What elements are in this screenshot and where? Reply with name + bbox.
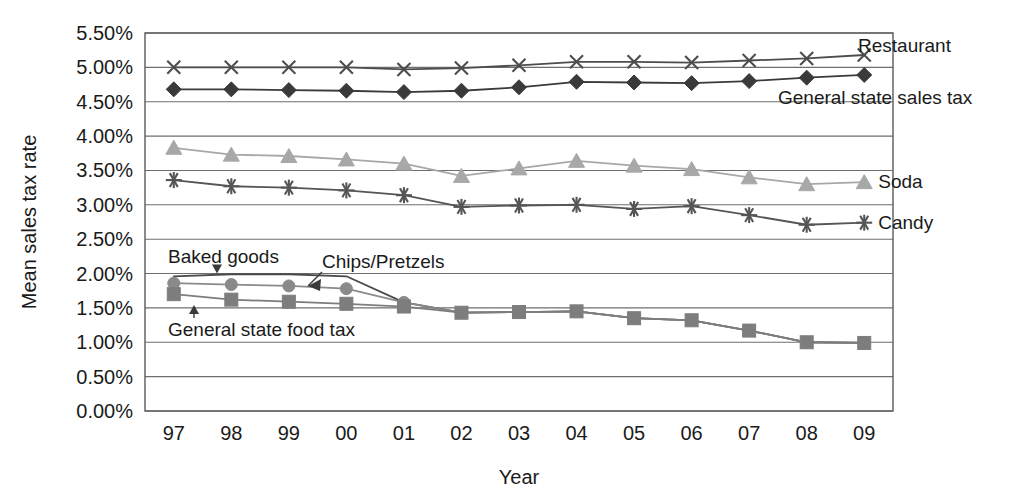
y-axis-tick-label: 0.00% [76,400,133,422]
x-axis-tick-label: 01 [393,422,415,444]
data-point-marker [454,83,469,98]
data-point-marker [684,76,699,91]
x-axis-tick-label: 07 [738,422,760,444]
x-axis-tick-label: 06 [680,422,702,444]
annotation-general-state-food-tax: General state food tax [168,319,355,340]
y-axis-tick-label: 1.00% [76,331,133,353]
y-axis-tick-label: 1.50% [76,297,133,319]
data-point-marker [224,82,239,97]
data-point-marker [511,198,527,214]
data-point-marker [338,182,354,198]
data-point-marker [857,67,872,82]
y-axis-tick-label: 2.00% [76,263,133,285]
data-point-marker [569,197,585,213]
y-axis-tick-label: 4.50% [76,91,133,113]
data-point-marker [628,312,641,325]
x-axis-tick-label: 98 [220,422,242,444]
data-point-marker [741,207,757,223]
x-axis-tick-label: 05 [623,422,645,444]
data-point-marker [858,336,871,349]
data-point-marker [743,324,756,337]
x-axis-tick-label: 00 [335,422,357,444]
data-point-marker [799,217,815,233]
chart-figure: 0.00%0.50%1.00%1.50%2.00%2.50%3.00%3.50%… [0,0,1009,495]
y-axis-tick-label: 2.50% [76,228,133,250]
x-axis-tick-label: 04 [565,422,587,444]
y-axis-tick-label: 0.50% [76,366,133,388]
data-point-marker [455,306,468,319]
series-label-general-state-sales-tax: General state sales tax [778,87,973,108]
data-point-marker [626,201,642,217]
x-axis-tick-label: 99 [278,422,300,444]
y-gridlines-group: 0.00%0.50%1.00%1.50%2.00%2.50%3.00%3.50%… [76,22,893,422]
x-axis-tick-label: 08 [796,422,818,444]
annotation-baked-goods: Baked goods [168,246,279,267]
series-candy: Candy [166,172,934,233]
y-axis-tick-label: 3.50% [76,159,133,181]
data-point-marker [453,199,469,215]
data-point-marker [396,187,412,203]
series-label-restaurant: Restaurant [858,35,952,56]
data-point-marker [281,83,296,98]
data-point-marker [166,82,181,97]
data-point-marker [685,314,698,327]
annotation-chips-pretzels: Chips/Pretzels [322,251,445,272]
data-point-marker [742,74,757,89]
data-point-marker [627,75,642,90]
data-point-marker [166,172,182,188]
y-axis-tick-label: 3.00% [76,194,133,216]
series-label-soda: Soda [878,171,923,192]
data-point-marker [339,83,354,98]
series-restaurant: Restaurant [167,35,951,76]
x-axis-tick-label: 02 [450,422,472,444]
data-point-marker [512,80,527,95]
data-point-marker [684,198,700,214]
data-point-marker [856,215,872,231]
x-axis-tick-label: 03 [508,422,530,444]
annotation-arrowhead [212,265,222,274]
data-point-marker [225,279,237,291]
y-axis-title: Mean sales tax rate [18,135,40,310]
y-axis-tick-label: 5.00% [76,56,133,78]
x-axis-tick-labels-group: 97989900010203040506070809 [163,422,876,444]
annotation-arrowhead [189,305,199,314]
data-point-marker [225,293,238,306]
series-label-candy: Candy [878,212,933,233]
x-axis-tick-label: 09 [853,422,875,444]
data-point-marker [340,283,352,295]
data-point-marker [397,300,410,313]
y-axis-tick-label: 4.00% [76,125,133,147]
data-point-marker [281,180,297,196]
data-point-marker [569,74,584,89]
data-point-marker [166,140,182,154]
data-point-marker [800,336,813,349]
data-point-marker [570,305,583,318]
sales-tax-line-chart: 0.00%0.50%1.00%1.50%2.00%2.50%3.00%3.50%… [0,0,1009,495]
data-point-marker [340,297,353,310]
annotation-arrowhead [308,279,321,291]
data-point-marker [396,85,411,100]
annotations-group: Baked goodsChips/PretzelsGeneral state f… [168,246,445,340]
x-axis-tick-label: 97 [163,422,185,444]
y-axis-tick-label: 5.50% [76,22,133,44]
data-point-marker [283,280,295,292]
data-point-marker [223,178,239,194]
data-point-marker [282,295,295,308]
data-point-marker [799,70,814,85]
x-axis-title: Year [499,466,540,488]
data-point-marker [513,306,526,319]
data-point-marker [569,153,585,167]
data-point-marker [167,288,180,301]
series-soda: Soda [166,140,923,192]
